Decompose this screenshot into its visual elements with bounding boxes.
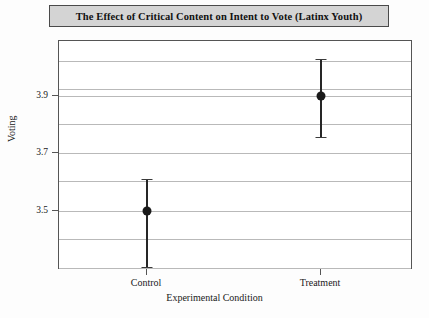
error-cap-control-upper <box>142 179 153 180</box>
y-tick-label: 3.7 <box>14 147 48 157</box>
error-cap-treatment-upper <box>316 59 327 60</box>
x-tick-label-treatment: Treatment <box>300 277 341 288</box>
data-point-treatment[interactable] <box>317 92 326 101</box>
data-point-control[interactable] <box>143 207 152 216</box>
x-tick-mark <box>146 269 147 275</box>
y-tick-mark <box>52 95 58 96</box>
x-tick-mark <box>320 269 321 275</box>
y-axis-title: Voting <box>6 116 17 143</box>
plot-area <box>58 40 412 269</box>
x-axis-title: Experimental Condition <box>0 292 429 303</box>
chart-title-banner: The Effect of Critical Content on Intent… <box>49 5 389 27</box>
y-tick-mark <box>52 210 58 211</box>
chart-figure: The Effect of Critical Content on Intent… <box>0 0 429 318</box>
y-tick-label: 3.5 <box>14 205 48 215</box>
y-tick-label: 3.9 <box>14 90 48 100</box>
error-cap-treatment-lower <box>316 137 327 138</box>
data-layer <box>59 41 411 268</box>
y-tick-mark <box>52 152 58 153</box>
gridline <box>59 268 411 269</box>
x-tick-label-control: Control <box>131 277 162 288</box>
chart-title: The Effect of Critical Content on Intent… <box>76 11 362 22</box>
error-bar-control <box>146 179 148 268</box>
